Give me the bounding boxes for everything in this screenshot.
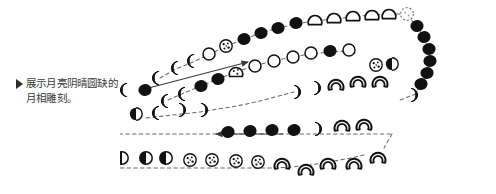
row-3-right-turn	[409, 19, 437, 102]
caption: 展示月亮阴晴圆缺的 月相雕刻。	[16, 76, 120, 106]
full-moon-dotted-apex	[401, 8, 414, 21]
direction-arrows	[120, 62, 283, 134]
figure-root: 展示月亮阴晴圆缺的 月相雕刻。	[0, 0, 496, 194]
leader-lines	[120, 14, 430, 168]
moon-phase-illustration	[120, 0, 496, 194]
row-1-top-outer	[152, 8, 413, 85]
moon-glyph-set	[120, 8, 438, 175]
caption-text: 展示月亮阴晴圆缺的 月相雕刻。	[26, 76, 118, 106]
triangle-right-icon	[16, 79, 23, 89]
row-6-bottom	[120, 149, 386, 175]
row-2-inner-return	[161, 44, 355, 108]
